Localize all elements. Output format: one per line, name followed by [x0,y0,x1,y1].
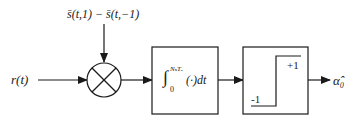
diagram-canvas [0,0,359,121]
decision-high-label: +1 [287,60,299,71]
output-label: α̂₀ [333,74,344,87]
reference-label: s̄(t,1) − s̄(t,−1) [67,8,139,20]
integral-upper-limit: NₛTₑ [170,66,183,73]
integrator-block [152,47,218,114]
integrand: (·)dt [186,74,206,86]
multiplier-node [87,63,121,97]
decision-low-label: -1 [251,94,260,105]
input-label: r(t) [11,73,28,86]
integral-sign: ∫ [163,68,168,86]
integral-lower-limit: 0 [170,86,174,94]
